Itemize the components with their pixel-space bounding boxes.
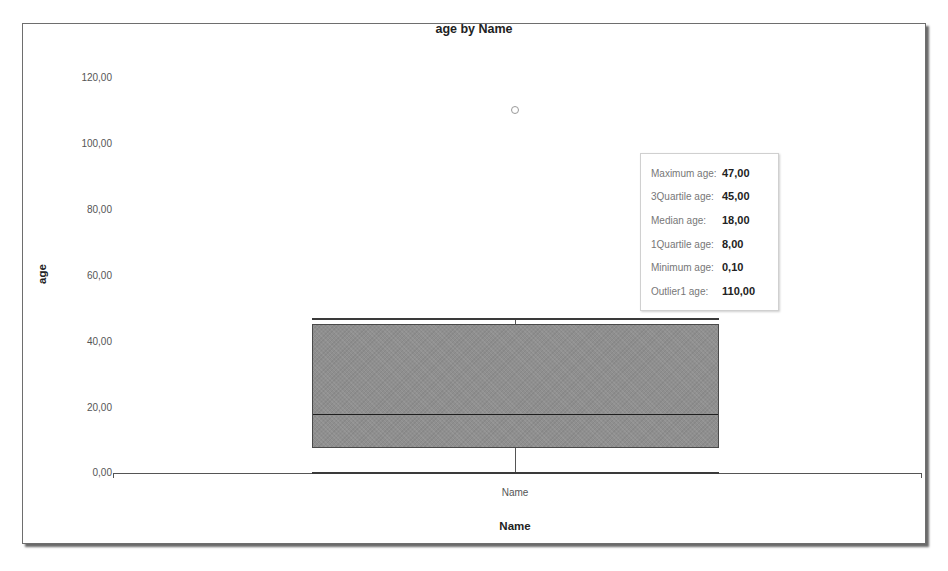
lower-whisker xyxy=(515,448,516,473)
y-tick-label: 80,00 xyxy=(40,204,112,215)
y-axis-title: age xyxy=(36,254,48,294)
minimum-line[interactable] xyxy=(312,472,719,474)
chart-frame xyxy=(22,23,926,544)
tooltip-value: 8,00 xyxy=(722,238,743,250)
tooltip-row-minimum: Minimum age:0,10 xyxy=(651,261,743,277)
x-category-label: Name xyxy=(415,487,615,498)
tooltip-label: Outlier1 age: xyxy=(651,286,722,297)
y-tick-label: 60,00 xyxy=(40,270,112,281)
tooltip-row-q3: 3Quartile age:45,00 xyxy=(651,190,750,206)
tooltip-value: 18,00 xyxy=(722,214,750,226)
tooltip-value: 45,00 xyxy=(722,190,750,202)
tooltip-label: Maximum age: xyxy=(651,168,722,179)
tooltip-label: 3Quartile age: xyxy=(651,191,722,202)
tooltip-row-outlier: Outlier1 age:110,00 xyxy=(651,285,755,301)
tooltip-row-median: Median age:18,00 xyxy=(651,214,750,230)
tooltip-row-q1: 1Quartile age:8,00 xyxy=(651,238,743,254)
chart-title: age by Name xyxy=(0,22,948,36)
outlier-point[interactable] xyxy=(511,106,519,114)
tooltip-label: Minimum age: xyxy=(651,262,722,273)
median-line[interactable] xyxy=(313,414,718,415)
y-tick-label: 0,00 xyxy=(40,467,112,478)
y-tick-label: 40,00 xyxy=(40,336,112,347)
tooltip-value: 110,00 xyxy=(722,285,755,297)
y-tick-label: 20,00 xyxy=(40,402,112,413)
maximum-line[interactable] xyxy=(312,318,719,320)
tooltip-value: 47,00 xyxy=(722,167,750,179)
tooltip-row-maximum: Maximum age:47,00 xyxy=(651,167,750,183)
tooltip-label: 1Quartile age: xyxy=(651,239,722,250)
tooltip-value: 0,10 xyxy=(722,261,743,273)
x-axis-title: Name xyxy=(415,520,615,532)
x-axis-tick xyxy=(921,473,922,478)
iqr-box[interactable] xyxy=(312,324,719,448)
y-tick-label: 100,00 xyxy=(40,138,112,149)
tooltip: Maximum age:47,00 3Quartile age:45,00 Me… xyxy=(640,153,779,311)
tooltip-label: Median age: xyxy=(651,215,722,226)
y-tick-label: 120,00 xyxy=(40,72,112,83)
x-axis-tick xyxy=(113,473,114,478)
